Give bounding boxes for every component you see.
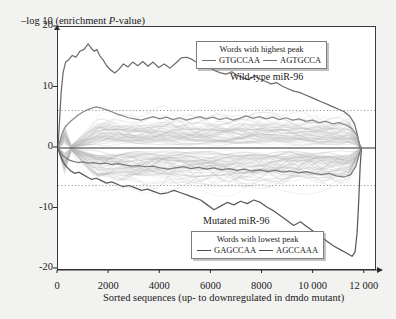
legend-lowest-peak: Words with lowest peak GAGCCAA AGCCAAA (191, 231, 324, 259)
y-tick-label: 10 (23, 80, 53, 91)
legend-label-gtgccaa: GTGCCAA (219, 55, 260, 65)
x-tick-label: 6000 (200, 280, 221, 291)
legend-highest-peak: Words with highest peak GTGCCAA AGTGCCA (196, 41, 327, 69)
x-tick-label: 0 (54, 280, 59, 291)
legend-label-agtgcca: AGTGCCA (280, 55, 321, 65)
x-axis-arrow-icon (377, 267, 383, 273)
legend-entry-agccaaa: AGCCAAA (259, 245, 318, 255)
x-tick-label: 8000 (251, 280, 272, 291)
line-swatch-icon (202, 60, 216, 61)
y-axis-title-suffix: -value) (115, 15, 145, 26)
y-tick-label: 0 (23, 140, 53, 151)
x-axis-title: Sorted sequences (up- to downregulated i… (103, 292, 344, 303)
x-tick-label: 10 000 (298, 280, 327, 291)
y-tick-label: 20 (23, 19, 53, 30)
line-swatch-icon (259, 250, 273, 251)
background-curve-band (58, 106, 362, 197)
x-tick-label: 4000 (149, 280, 170, 291)
annotation-wild-type: Wild-type miR-96 (230, 71, 303, 82)
x-tick-label: 12 000 (349, 280, 378, 291)
x-axis-tick-labels: 0200040006000800010 00012 000 (0, 274, 396, 290)
legend-label-agccaaa: AGCCAAA (276, 245, 318, 255)
legend-entry-agtgcca: AGTGCCA (263, 55, 321, 65)
line-swatch-icon (263, 60, 277, 61)
y-tick-label: -10 (23, 201, 53, 212)
legend-entry-gtgccaa: GTGCCAA (202, 55, 260, 65)
y-axis-tick-labels: 20100-10-20 (19, 0, 53, 319)
legend-label-gagccaa: GAGCCAA (214, 245, 256, 255)
legend-lowest-peak-title: Words with lowest peak (197, 234, 318, 244)
legend-highest-peak-title: Words with highest peak (202, 44, 321, 54)
line-swatch-icon (197, 250, 211, 251)
annotation-mutated: Mutated miR-96 (203, 215, 269, 226)
figure-container: –log 10 (enrichment P-value) 20100-10-20… (0, 0, 396, 319)
legend-entry-gagccaa: GAGCCAA (197, 245, 256, 255)
x-tick-label: 2000 (98, 280, 119, 291)
y-tick-label: -20 (23, 261, 53, 272)
